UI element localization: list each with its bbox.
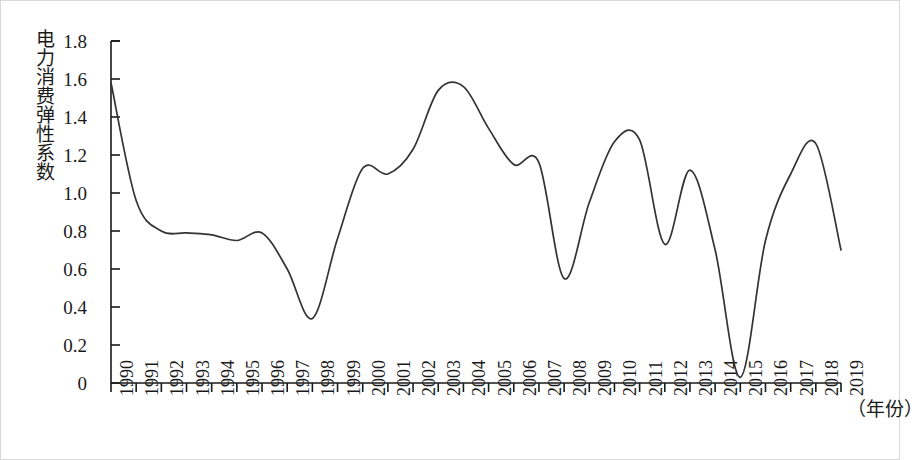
data-series-line bbox=[111, 82, 841, 377]
x-axis-ticks bbox=[111, 383, 841, 392]
axis-lines bbox=[111, 41, 841, 383]
plot-area bbox=[1, 1, 901, 460]
